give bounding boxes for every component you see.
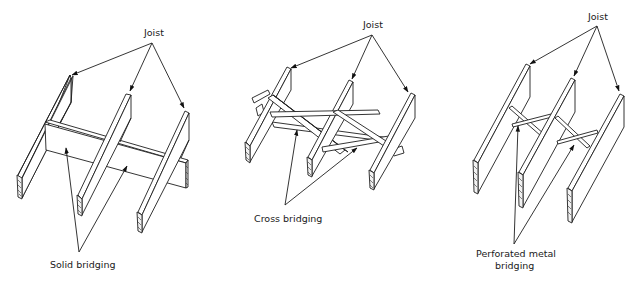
joist-label: Joist xyxy=(362,19,383,30)
joist-label: Joist xyxy=(587,11,608,22)
panel-cross-bridging: Joist Cross bridging xyxy=(245,19,415,224)
joist-bridging-diagram: Joist Solid bridging xyxy=(0,0,642,292)
perforated-bridging-label-line2: bridging xyxy=(495,260,534,271)
cross-bridging-label: Cross bridging xyxy=(254,213,322,224)
joist-label: Joist xyxy=(143,27,164,38)
panel-perforated-metal-bridging: Joist Perforated metal bridging xyxy=(473,11,624,271)
solid-bridging-label: Solid bridging xyxy=(50,259,116,270)
joist-3 xyxy=(567,94,624,223)
perforated-bridging-label-line1: Perforated metal xyxy=(476,248,556,259)
panel-solid-bridging: Joist Solid bridging xyxy=(17,27,189,270)
